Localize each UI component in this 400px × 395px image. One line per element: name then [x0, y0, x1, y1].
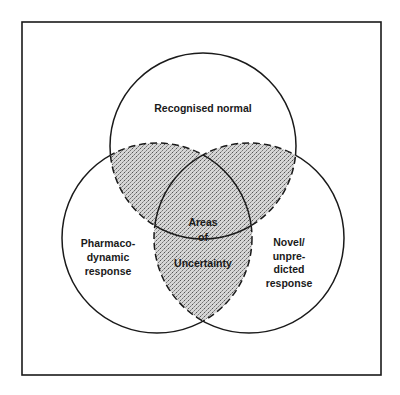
label-pharmacodynamic-line3: response: [85, 265, 132, 277]
label-areas: Areas: [188, 216, 217, 228]
label-pharmacodynamic-line2: dynamic: [87, 251, 130, 263]
label-novel-line1: Novel/: [273, 236, 305, 248]
label-pharmacodynamic-line1: Pharmaco-: [81, 237, 136, 249]
label-recognised-normal: Recognised normal: [154, 102, 252, 114]
label-novel-line2: unpre-: [273, 250, 306, 262]
label-novel-line4: response: [266, 277, 313, 289]
label-of: of: [198, 231, 208, 243]
label-uncertainty: Uncertainty: [174, 257, 232, 269]
venn-diagram: Recognised normal Pharmaco- dynamic resp…: [0, 0, 400, 395]
label-novel-line3: dicted: [274, 263, 305, 275]
